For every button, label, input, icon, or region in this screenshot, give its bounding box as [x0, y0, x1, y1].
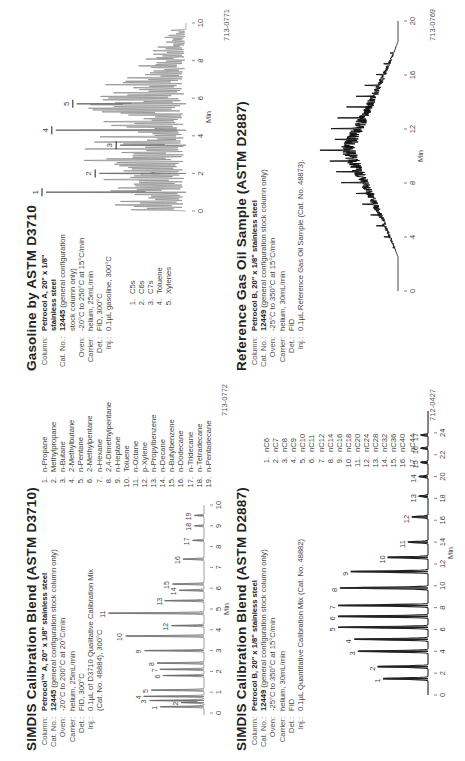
- peak-list-item: 17.n-Tridecane: [186, 402, 195, 491]
- chromatogram-trace: [320, 21, 398, 291]
- param-row: Carrier:helium, 30mL/min: [278, 539, 287, 761]
- param-value-text: FID, 300°C: [77, 673, 86, 711]
- peak-list-item: 13.n-Propylbenzene: [149, 402, 158, 491]
- param-value-bold: Petrocol B, 20" x 1/8" stainless steel: [250, 580, 259, 711]
- gasoline-peak-list: 1.C5s2.C6s3.C7s4.Toluene5.Xylenes: [128, 267, 173, 313]
- peak-name: nC10: [298, 434, 307, 452]
- reference-gas-oil-chromatogram: 048121620Min: [312, 1, 422, 301]
- peak-label: 4: [135, 695, 142, 699]
- peak-label: 5: [142, 689, 149, 693]
- param-row: Carrier:helium, 25mL/min: [68, 549, 77, 761]
- peak-list-item: 15.nC36: [389, 434, 398, 471]
- peak-number: 16.: [176, 472, 185, 491]
- x-tick-label: 8: [214, 545, 223, 549]
- peak-list-item: 10.nC18: [344, 434, 353, 471]
- param-value: helium, 25mL/min: [86, 271, 95, 331]
- peak-label: 1: [31, 189, 40, 194]
- param-value: 12445 (general configuration stock colum…: [49, 549, 58, 711]
- peak-label: 15: [163, 581, 170, 589]
- param-value-text: 0.1µL Quantitative Calibration Mix (Cat.…: [296, 539, 305, 711]
- peak-number: 12.: [140, 472, 149, 491]
- peak-label: 17: [183, 537, 190, 545]
- peak-name: C5s: [128, 280, 137, 294]
- document-page: SIMDIS Calibration Blend (ASTM D3710) Co…: [0, 0, 465, 761]
- peak-number: 9.: [335, 452, 344, 471]
- param-value-text: (general configuration stock column only…: [259, 549, 268, 690]
- peak-name: n-Pentadecane: [204, 420, 213, 472]
- peak-list-item: 7.nC12: [317, 434, 326, 471]
- peak-label: 3: [105, 142, 114, 147]
- simdis-d3710-panel: SIMDIS Calibration Blend (ASTM D3710) Co…: [0, 381, 230, 761]
- peak-list-item: 2.C6s: [137, 267, 146, 313]
- peak-number: 2.: [271, 452, 280, 471]
- param-label: Column:: [40, 711, 49, 761]
- param-value-bold: 12445: [58, 310, 67, 331]
- param-value-text: helium, 25mL/min: [86, 271, 95, 331]
- param-value-text: -20°C to 250°C at 15°C/min: [77, 238, 86, 331]
- param-row: Det.:FID, 300°C: [95, 234, 104, 381]
- chromatogram-trace: [46, 23, 186, 211]
- param-label: Oven:: [268, 331, 277, 381]
- param-value-bold: Petrocol B, 20" x 1/8" stainless steel: [250, 200, 259, 331]
- x-axis-label: Min: [204, 111, 213, 123]
- peak-name: nC14: [326, 434, 335, 452]
- peak-number: 12.: [362, 452, 371, 471]
- x-tick-label: 1: [214, 690, 223, 694]
- peak-list-item: 2.nC7: [271, 434, 280, 471]
- peak-label: 7: [328, 605, 337, 609]
- param-row: Column:Petrocol A, 20" x 1/8": [40, 234, 49, 381]
- param-label: Carrier:: [86, 331, 95, 381]
- param-row: Column:Petrocol B, 20" x 1/8" stainless …: [250, 539, 259, 761]
- peak-label: 9: [341, 571, 350, 575]
- param-value-text: helium, 30mL/min: [278, 651, 287, 711]
- peak-list-item: 2.Methylpropane: [49, 402, 58, 491]
- peak-label: 5: [328, 627, 337, 631]
- param-label: Column:: [40, 331, 49, 381]
- peak-list-item: 3.n-Butane: [58, 402, 67, 491]
- peak-label: 7: [151, 668, 158, 672]
- peak-name: C6s: [137, 280, 146, 294]
- param-value: 0.1µL of D3710 Qualitative Calibration M…: [86, 569, 95, 711]
- peak-label: 4: [344, 639, 353, 643]
- peak-name: nC44: [408, 434, 417, 452]
- gasoline-figure-id: 713-0771: [222, 9, 231, 41]
- param-value-text: FID, 300°C: [95, 293, 104, 331]
- peak-list-item: 16.nC40: [398, 434, 407, 471]
- param-row: Oven:-20°C to 200°C at 20°C/min: [58, 549, 67, 761]
- peak-label: 1: [373, 679, 382, 683]
- peak-list-item: 12.nC24: [362, 434, 371, 471]
- param-value-text: FID: [287, 319, 296, 331]
- param-label: Cat. No.:: [259, 331, 268, 381]
- peak-name: 2-Methylbutane: [67, 420, 76, 472]
- reference-gas-oil-title: Reference Gas Oil Sample (ASTM D2887): [234, 101, 249, 371]
- x-tick-label: 2: [438, 671, 447, 675]
- peak-number: 1.: [262, 452, 271, 471]
- peak-number: 14.: [380, 452, 389, 471]
- peak-name: n-Tetradecane: [195, 423, 204, 472]
- simdis-d3710-title: SIMDIS Calibration Blend (ASTM D3710): [24, 487, 39, 751]
- param-row: Cat. No.:12445 (general configuration st…: [49, 549, 58, 761]
- peak-label: 11: [99, 610, 106, 617]
- param-row: Column:Petrocol B, 20" x 1/8" stainless …: [250, 159, 259, 381]
- x-tick-label: 12: [408, 125, 417, 133]
- x-tick-label: 16: [408, 71, 417, 79]
- peak-number: 1.: [40, 472, 49, 491]
- peak-name: nC40: [398, 434, 407, 452]
- gasoline-title: Gasoline by ASTM D3710: [24, 205, 39, 371]
- peak-name: n-Propane: [40, 437, 49, 472]
- peak-name: n-Hexane: [95, 439, 104, 472]
- param-row: Inj.:0.1µL of D3710 Qualitative Calibrat…: [86, 549, 95, 761]
- peak-name: nC16: [335, 434, 344, 452]
- param-row: Oven:-25°C to 350°C at 15°C/min: [268, 159, 277, 381]
- peak-number: 7.: [317, 452, 326, 471]
- x-tick-label: 10: [196, 19, 205, 27]
- param-value-text: (general configuration: [58, 234, 67, 310]
- param-label: Inj.:: [296, 711, 305, 761]
- gasoline-panel: Gasoline by ASTM D3710 Column:Petrocol A…: [0, 0, 230, 381]
- param-value-bold: Petrocol A, 20" x 1/8": [40, 254, 49, 331]
- peak-label: 13: [156, 598, 163, 606]
- peak-number: 2.: [137, 294, 146, 313]
- peak-list-item: 11.n-Octane: [131, 402, 140, 491]
- param-value: -25°C to 350°C at 15°C/min: [268, 238, 277, 331]
- simdis-d2887-params: Column:Petrocol B, 20" x 1/8" stainless …: [250, 539, 305, 761]
